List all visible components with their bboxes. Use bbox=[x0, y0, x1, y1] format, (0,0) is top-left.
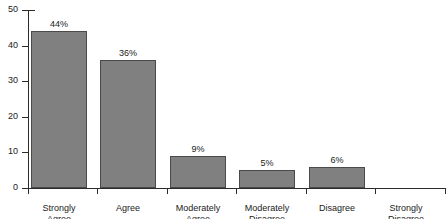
value-label-moderately-agree: 9% bbox=[170, 144, 226, 154]
y-tick-10: 10 bbox=[22, 152, 29, 153]
y-tick-40: 40 bbox=[22, 46, 29, 47]
bar-disagree bbox=[309, 167, 365, 188]
x-tick-4 bbox=[306, 188, 307, 194]
x-tick-3 bbox=[236, 188, 237, 194]
y-tick-label-20: 20 bbox=[8, 111, 18, 122]
x-axis-line bbox=[28, 188, 446, 189]
category-label-agree: Agree bbox=[93, 203, 163, 214]
value-label-strongly-agree: 44% bbox=[31, 19, 87, 29]
plot-area: 0 10 20 30 40 50 44% 36% bbox=[28, 10, 446, 188]
y-tick-label-30: 30 bbox=[8, 75, 18, 86]
bar-moderately-agree bbox=[170, 156, 226, 188]
x-tick-6 bbox=[445, 188, 446, 194]
value-label-disagree: 6% bbox=[309, 155, 365, 165]
bar-chart: 0 10 20 30 40 50 44% 36% bbox=[0, 0, 448, 219]
y-tick-label-40: 40 bbox=[8, 40, 18, 51]
category-label-disagree: Disagree bbox=[302, 203, 372, 214]
y-axis-top-cap bbox=[28, 10, 35, 11]
value-label-agree: 36% bbox=[100, 48, 156, 58]
category-label-strongly-disagree: Strongly Disagree bbox=[371, 203, 441, 219]
x-tick-2 bbox=[167, 188, 168, 194]
y-tick-label-50: 50 bbox=[8, 4, 18, 15]
x-tick-0 bbox=[28, 188, 29, 194]
value-label-moderately-disagree: 5% bbox=[239, 158, 295, 168]
x-tick-1 bbox=[97, 188, 98, 194]
x-tick-5 bbox=[375, 188, 376, 194]
y-axis-line bbox=[28, 10, 29, 188]
chart-title-cropped bbox=[236, 0, 356, 4]
category-label-moderately-disagree: Moderately Disagree bbox=[232, 203, 302, 219]
y-tick-label-10: 10 bbox=[8, 146, 18, 157]
category-label-moderately-agree: Moderately Agree bbox=[163, 203, 233, 219]
y-tick-label-0: 0 bbox=[13, 182, 18, 193]
bar-strongly-agree bbox=[31, 31, 87, 188]
bar-agree bbox=[100, 60, 156, 188]
y-tick-20: 20 bbox=[22, 117, 29, 118]
y-tick-50: 50 bbox=[22, 10, 29, 11]
bar-moderately-disagree bbox=[239, 170, 295, 188]
category-label-strongly-agree: Strongly Agree bbox=[24, 203, 94, 219]
y-tick-30: 30 bbox=[22, 81, 29, 82]
